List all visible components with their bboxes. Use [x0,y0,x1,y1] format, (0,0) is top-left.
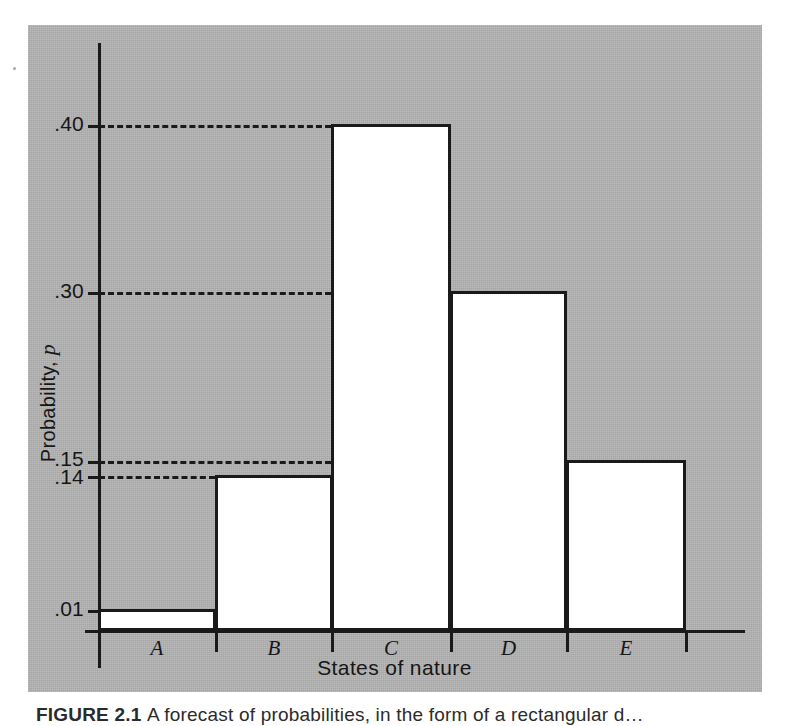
bar-e[interactable] [566,460,686,631]
y-tick-030 [88,292,101,295]
y-axis-title-text: Probability, [37,361,59,462]
y-tick-015 [88,461,101,464]
bar-d[interactable] [450,291,567,631]
figure-caption-label: FIGURE 2.1 [36,704,141,725]
leader-line-040 [99,125,331,128]
y-tick-040 [88,125,101,128]
figure-caption-text: A forecast of probabilities, in the form… [147,704,644,725]
y-tick-label-040: .40 [32,112,84,136]
y-tick-014 [88,476,101,479]
bar-a[interactable] [98,609,216,631]
y-axis-title: Probability, p [35,303,61,503]
x-axis-line [85,630,745,633]
leader-line-014 [99,476,215,479]
x-axis-title: States of nature [0,656,789,680]
bar-b[interactable] [215,475,333,631]
figure-caption: FIGURE 2.1 A forecast of probabilities, … [36,704,776,726]
bar-c[interactable] [331,124,451,631]
leader-line-030 [99,292,331,295]
y-tick-label-001: .01 [32,597,84,621]
y-axis-title-symbol: p [35,344,60,355]
y-tick-label-030: .30 [32,279,84,303]
y-tick-001 [88,610,101,613]
scan-speck [13,67,16,70]
y-axis-line [98,43,101,668]
